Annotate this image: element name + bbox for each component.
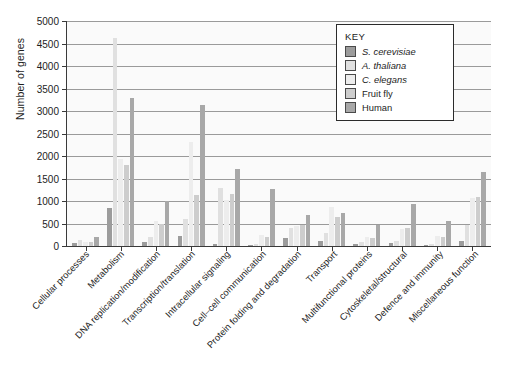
bar (394, 241, 399, 246)
x-axis-category-labels: Cellular processesMetabolismDNA replicat… (66, 249, 491, 379)
bar (470, 198, 475, 246)
bar (424, 245, 429, 246)
legend-color-swatch (345, 88, 356, 99)
x-axis-label: Multifunctional proteins (300, 249, 374, 325)
y-tick-label: 2000 (37, 151, 59, 162)
x-axis-label: Cytoskeletal/structural (338, 249, 410, 323)
bar (189, 142, 194, 246)
x-axis-label: Miscellaneous function (407, 249, 480, 324)
legend-item: Human (345, 102, 446, 113)
x-axis-label: Defence and immunity (373, 249, 445, 323)
y-tick-label: 3000 (37, 106, 59, 117)
bar (124, 165, 129, 246)
bar (118, 159, 123, 246)
bar (335, 217, 340, 246)
bar (224, 200, 229, 246)
bar (376, 225, 381, 246)
bar (72, 243, 77, 246)
bar (459, 241, 464, 246)
legend-title: KEY (345, 31, 446, 42)
y-tick-label: 5000 (37, 16, 59, 27)
bar (248, 245, 253, 246)
bar (306, 215, 311, 246)
x-axis-label: Transport (304, 249, 339, 285)
legend-label: S. cerevisiae (362, 46, 416, 57)
bar (148, 237, 153, 246)
bar (183, 219, 188, 246)
bar (78, 240, 83, 246)
legend-color-swatch (345, 102, 356, 113)
bar (481, 172, 486, 246)
y-tick-label: 4500 (37, 38, 59, 49)
y-axis-title: Number of genes (14, 0, 26, 120)
y-tick-mark (62, 246, 67, 247)
y-tick-label: 2500 (37, 128, 59, 139)
y-tick-label: 500 (42, 218, 59, 229)
bar (411, 204, 416, 246)
bar (465, 225, 470, 246)
bar (230, 194, 235, 246)
bar (429, 244, 434, 246)
bar-group (138, 21, 173, 246)
bar (165, 201, 170, 246)
bar (283, 238, 288, 246)
bar (476, 197, 481, 247)
legend-color-swatch (345, 60, 356, 71)
legend-label: C. elegans (362, 74, 407, 85)
bar (329, 207, 334, 246)
bar (113, 38, 118, 246)
bar (142, 242, 147, 246)
legend-item: A. thaliana (345, 60, 446, 71)
bar (353, 244, 358, 246)
bar-group (244, 21, 279, 246)
legend-item: Fruit fly (345, 88, 446, 99)
bar-group (209, 21, 244, 246)
bar-group (279, 21, 314, 246)
legend-item: C. elegans (345, 74, 446, 85)
bar (218, 188, 223, 247)
bar-group (68, 21, 103, 246)
bar (370, 238, 375, 246)
bar (289, 228, 294, 246)
bar (94, 237, 99, 246)
x-axis-label: Intracellular signaling (164, 249, 233, 320)
bar (178, 236, 183, 246)
bar (194, 195, 199, 246)
legend-label: Human (362, 102, 392, 113)
legend-item: S. cerevisiae (345, 46, 446, 57)
y-tick-label: 1500 (37, 173, 59, 184)
legend-color-swatch (345, 74, 356, 85)
bar (200, 105, 205, 246)
y-tick-label: 3500 (37, 83, 59, 94)
x-axis-label: Cellular processes (30, 249, 91, 312)
bar (365, 237, 370, 246)
bar (446, 221, 451, 246)
legend-label: Fruit fly (362, 88, 393, 99)
bar (213, 244, 218, 246)
bar (405, 228, 410, 246)
bar (159, 224, 164, 247)
y-tick-label: 4000 (37, 61, 59, 72)
bar (389, 243, 394, 246)
bar (441, 237, 446, 246)
bar (400, 229, 405, 246)
legend: KEY S. cerevisiaeA. thalianaC. elegansFr… (336, 24, 454, 121)
bar (130, 98, 135, 246)
bar (341, 213, 346, 246)
bar (154, 221, 159, 246)
bar (235, 169, 240, 246)
bar (265, 237, 270, 246)
bar (359, 242, 364, 246)
bar (318, 241, 323, 246)
bar (435, 236, 440, 246)
y-tick-label: 0 (53, 241, 59, 252)
y-tick-label: 1000 (37, 196, 59, 207)
bar (300, 225, 305, 246)
bar-group (174, 21, 209, 246)
bar (270, 189, 275, 246)
bar (324, 233, 329, 247)
legend-label: A. thaliana (362, 60, 406, 71)
bar (107, 208, 112, 246)
bar (89, 242, 94, 246)
legend-entries: S. cerevisiaeA. thalianaC. elegansFruit … (345, 46, 446, 113)
